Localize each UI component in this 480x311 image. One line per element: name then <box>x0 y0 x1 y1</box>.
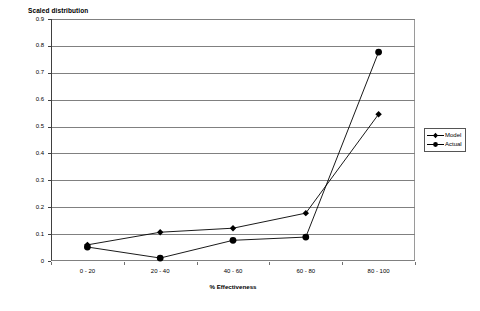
data-point-circle <box>157 255 164 262</box>
chart-title: Scaled distribution <box>28 7 88 14</box>
data-point-circle <box>230 237 237 244</box>
legend-label-actual: Actual <box>445 141 462 148</box>
data-point-circle <box>375 49 382 56</box>
x-axis-title: % Effectiveness <box>209 283 256 290</box>
legend-item-actual[interactable]: Actual <box>427 140 462 149</box>
chart-container: Scaled distribution 0.90.80.70.60.50.40.… <box>0 0 480 311</box>
legend-label-model: Model <box>445 132 461 139</box>
data-point-diamond <box>303 210 309 216</box>
data-point-circle <box>84 244 91 251</box>
data-point-diamond <box>157 229 163 235</box>
data-point-diamond <box>230 225 236 231</box>
data-point-diamond <box>375 111 381 117</box>
chart-legend: Model Actual <box>424 128 466 152</box>
legend-item-model[interactable]: Model <box>427 131 462 140</box>
data-series-layer <box>0 0 480 311</box>
series-model <box>84 111 382 248</box>
legend-marker-diamond-icon <box>427 131 444 140</box>
legend-marker-circle-icon <box>427 140 444 149</box>
data-point-circle <box>302 234 309 241</box>
